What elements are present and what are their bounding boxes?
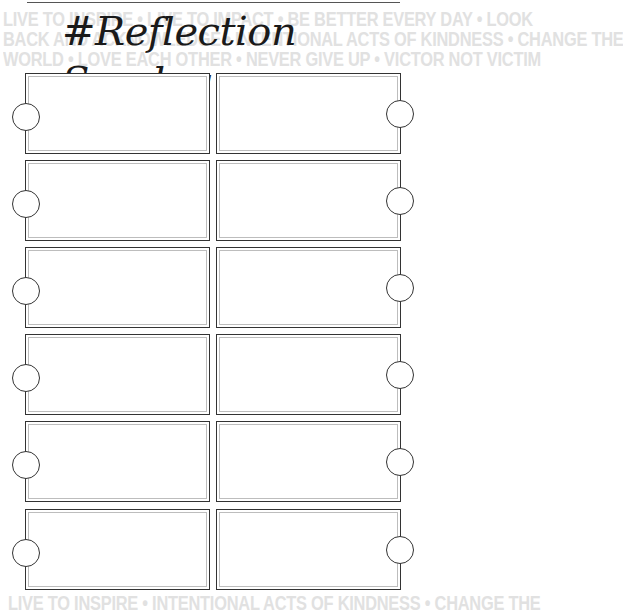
reflection-box-inner-border: [219, 424, 398, 499]
reflection-box-4-left[interactable]: [25, 334, 210, 415]
reflection-box-inner-border: [28, 424, 207, 499]
reflection-box-1-left[interactable]: [25, 73, 210, 154]
reflection-box-4-right[interactable]: [216, 334, 401, 415]
checkbox-circle-icon[interactable]: [386, 274, 414, 302]
checkbox-circle-icon[interactable]: [386, 536, 414, 564]
checkbox-circle-icon[interactable]: [12, 539, 40, 567]
reflection-box-6-left[interactable]: [25, 509, 210, 590]
top-rule: [27, 2, 400, 3]
reflection-box-inner-border: [219, 250, 398, 325]
reflection-box-inner-border: [219, 337, 398, 412]
reflection-box-inner-border: [219, 76, 398, 151]
checkbox-circle-icon[interactable]: [12, 190, 40, 218]
reflection-box-2-right[interactable]: [216, 160, 401, 241]
checkbox-circle-icon[interactable]: [12, 364, 40, 392]
reflection-box-5-left[interactable]: [25, 421, 210, 502]
checkbox-circle-icon[interactable]: [12, 451, 40, 479]
checkbox-circle-icon[interactable]: [12, 277, 40, 305]
reflection-box-3-right[interactable]: [216, 247, 401, 328]
reflection-box-inner-border: [28, 76, 207, 151]
reflection-box-inner-border: [28, 337, 207, 412]
reflection-box-3-left[interactable]: [25, 247, 210, 328]
reflection-box-inner-border: [219, 163, 398, 238]
reflection-box-inner-border: [28, 250, 207, 325]
checkbox-circle-icon[interactable]: [386, 361, 414, 389]
reflection-box-6-right[interactable]: [216, 509, 401, 590]
reflection-box-inner-border: [28, 163, 207, 238]
reflection-box-1-right[interactable]: [216, 73, 401, 154]
reflection-box-2-left[interactable]: [25, 160, 210, 241]
checkbox-circle-icon[interactable]: [386, 187, 414, 215]
background-quote-line: LIVE TO INSPIRE • INTENTIONAL ACTS OF KI…: [8, 592, 343, 613]
checkbox-circle-icon[interactable]: [386, 448, 414, 476]
checkbox-circle-icon[interactable]: [386, 100, 414, 128]
reflection-box-inner-border: [28, 512, 207, 587]
reflection-box-5-right[interactable]: [216, 421, 401, 502]
checkbox-circle-icon[interactable]: [12, 103, 40, 131]
reflection-box-inner-border: [219, 512, 398, 587]
